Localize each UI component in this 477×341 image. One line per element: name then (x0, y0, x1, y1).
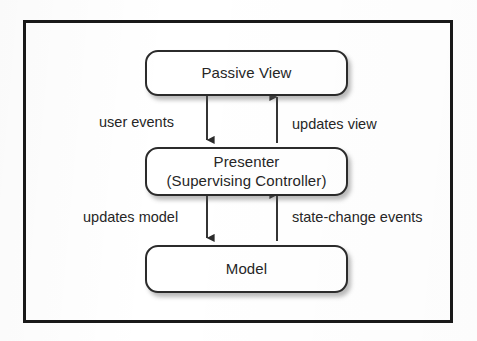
node-model-label: Model (226, 260, 267, 278)
node-passive-view[interactable]: Passive View (145, 50, 348, 96)
edge-label-state-change-events: state-change events (292, 209, 423, 226)
edge-label-updates-view: updates view (292, 116, 377, 133)
node-presenter-sublabel: (Supervising Controller) (167, 171, 327, 190)
edge-label-user-events: user events (99, 114, 174, 131)
diagram-outer-frame: Passive View Presenter (Supervising Cont… (23, 20, 453, 323)
node-presenter-label: Presenter (214, 153, 280, 171)
edge-label-updates-model: updates model (83, 209, 178, 226)
node-model[interactable]: Model (145, 245, 348, 293)
node-passive-view-label: Passive View (201, 64, 291, 82)
diagram-root: Passive View Presenter (Supervising Cont… (0, 0, 477, 341)
node-presenter[interactable]: Presenter (Supervising Controller) (145, 147, 348, 196)
